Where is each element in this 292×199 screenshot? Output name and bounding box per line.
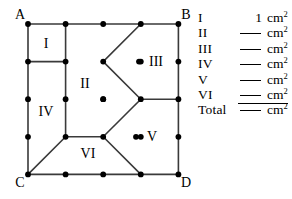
dot <box>63 59 69 65</box>
marker-dot-iii <box>136 59 142 65</box>
region-label-ii: II <box>80 76 90 91</box>
answer-label-iv: IV <box>198 56 238 71</box>
blank-rule <box>240 64 261 65</box>
figure-canvas: A B C D I II III IV V VI <box>0 0 196 199</box>
answer-label-vi: VI <box>198 87 238 102</box>
answer-value-i[interactable]: 1 <box>238 10 265 25</box>
geometry-figure: A B C D I II III IV V VI <box>0 0 196 199</box>
blank-rule <box>240 80 261 81</box>
corner-label-a: A <box>15 7 26 22</box>
answer-row-vi: VI cm2 <box>198 87 290 102</box>
region-label-v: V <box>147 129 157 144</box>
blank-rule <box>240 49 261 50</box>
dot <box>63 96 69 102</box>
dot <box>176 96 182 102</box>
answer-row-iv: IV cm2 <box>198 56 290 71</box>
total-separator-rule <box>238 103 288 104</box>
region-label-iii: III <box>149 54 163 69</box>
dot <box>138 172 144 178</box>
dot <box>176 134 182 140</box>
answer-row-v: V cm2 <box>198 72 290 87</box>
blank-rule <box>240 95 261 96</box>
boundary-chevron-upper <box>103 24 141 99</box>
dot <box>138 96 144 102</box>
region-label-i: I <box>44 36 49 51</box>
answer-row-ii: II cm2 <box>198 25 290 40</box>
answer-label-ii: II <box>198 25 238 40</box>
answer-list: I 1 cm2 II cm2 III cm2 IV cm2 V cm2 VI <box>198 10 290 118</box>
answer-label-v: V <box>198 72 238 87</box>
dot <box>100 134 106 140</box>
answer-label-total: Total <box>198 102 238 117</box>
boundary-chevron-lower <box>103 99 141 137</box>
dot <box>100 172 106 178</box>
corner-label-d: D <box>181 175 191 190</box>
dot <box>63 134 69 140</box>
dot <box>63 21 69 27</box>
answer-unit-total: cm2 <box>265 102 288 117</box>
marker-dot-ii <box>100 96 106 102</box>
answer-row-iii: III cm2 <box>198 41 290 56</box>
dot <box>25 21 31 27</box>
region-label-vi: VI <box>81 146 96 161</box>
dot <box>25 134 31 140</box>
dot <box>100 59 106 65</box>
worksheet-figure-page: A B C D I II III IV V VI I 1 cm2 <box>0 0 292 199</box>
answer-label-iii: III <box>198 41 238 56</box>
region-label-iv: IV <box>39 104 54 119</box>
blank-rule <box>240 110 261 111</box>
dot <box>25 172 31 178</box>
answer-row-i: I 1 cm2 <box>198 10 290 25</box>
answer-label-i: I <box>198 10 238 25</box>
region-marker-dots <box>100 59 142 140</box>
corner-label-c: C <box>15 175 24 190</box>
dot <box>63 172 69 178</box>
boundary-c-diagonal <box>28 137 66 175</box>
dot <box>138 21 144 27</box>
boundary-vi-right-diagonal <box>103 137 141 175</box>
marker-dot-v <box>133 134 139 140</box>
corner-label-b: B <box>181 7 190 22</box>
answer-row-total: Total cm2 <box>198 102 290 117</box>
dot <box>25 59 31 65</box>
dot <box>100 21 106 27</box>
blank-rule <box>240 33 261 34</box>
dot <box>176 59 182 65</box>
dot <box>25 96 31 102</box>
